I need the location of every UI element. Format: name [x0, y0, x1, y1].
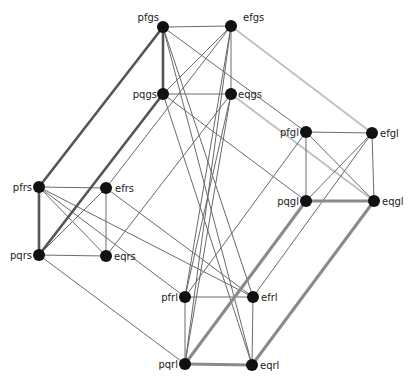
node-dot[interactable] — [300, 126, 312, 138]
node-pqrs[interactable]: pqrs — [10, 249, 45, 261]
edge-eqgs-pqrl — [185, 94, 231, 364]
node-label: eqgs — [238, 89, 262, 100]
node-dot[interactable] — [300, 195, 312, 207]
node-label: pfgs — [138, 12, 159, 23]
node-label: pfrl — [161, 292, 178, 303]
edge-pfrs-pfrl — [39, 187, 185, 297]
edge-eqgs-eqgl — [231, 94, 374, 201]
node-pqgl[interactable]: pqgl — [277, 195, 312, 207]
edge-pqgs-pqrs — [39, 94, 163, 255]
node-dot[interactable] — [179, 291, 191, 303]
node-efrl[interactable]: efrl — [247, 291, 278, 303]
node-eqgs[interactable]: eqgs — [225, 88, 262, 100]
node-label: pfgl — [280, 127, 299, 138]
node-label: efgl — [380, 128, 399, 139]
edge-pqrl-eqrl — [185, 364, 252, 365]
node-label: efrs — [115, 183, 134, 194]
edge-efgs-pfrl — [185, 26, 231, 297]
node-eqgl[interactable]: eqgl — [368, 195, 404, 207]
node-eqrs[interactable]: eqrs — [100, 250, 136, 262]
node-dot[interactable] — [33, 249, 45, 261]
node-label: eqgl — [382, 196, 404, 207]
node-dot[interactable] — [225, 20, 237, 32]
node-efgl[interactable]: efgl — [366, 127, 399, 139]
hypercube-graph: pfgsefgspqgseqgspfglefglpqgleqglpfrsefrs… — [0, 0, 412, 388]
edge-pfgs-pfrs — [39, 27, 163, 187]
node-dot[interactable] — [366, 127, 378, 139]
edge-efrs-efrl — [106, 188, 253, 297]
edge-pfrs-efrs — [39, 187, 106, 188]
node-label: pqrs — [10, 250, 32, 261]
node-dot[interactable] — [368, 195, 380, 207]
node-pfgl[interactable]: pfgl — [280, 126, 312, 138]
node-dot[interactable] — [33, 181, 45, 193]
node-pqgs[interactable]: pqgs — [133, 88, 169, 100]
node-dot[interactable] — [157, 88, 169, 100]
node-efgs[interactable]: efgs — [225, 12, 264, 32]
node-dot[interactable] — [179, 358, 191, 370]
edge-pfgl-pfrl — [185, 132, 306, 297]
node-label: pfrs — [13, 182, 32, 193]
node-pfgs[interactable]: pfgs — [138, 12, 169, 33]
edge-eqgl-eqrl — [252, 201, 374, 365]
node-dot[interactable] — [100, 182, 112, 194]
edge-layer — [39, 26, 374, 365]
node-eqrl[interactable]: eqrl — [246, 359, 279, 371]
edge-pfgs-efgs — [163, 26, 231, 27]
edge-efgl-pqgl — [306, 133, 372, 201]
node-efrs[interactable]: efrs — [100, 182, 134, 194]
node-label: efrl — [261, 292, 278, 303]
node-dot[interactable] — [225, 88, 237, 100]
node-label: eqrl — [260, 360, 279, 371]
edge-pqrs-eqrs — [39, 255, 106, 256]
node-pfrl[interactable]: pfrl — [161, 291, 191, 303]
node-dot[interactable] — [247, 291, 259, 303]
edge-pfgl-efgl — [306, 132, 372, 133]
edge-pfgs-pfgl — [163, 27, 306, 132]
edge-efrl-eqrl — [252, 297, 253, 365]
edge-pqrs-pqrl — [39, 255, 185, 364]
node-label: pqgl — [277, 196, 299, 207]
node-pfrs[interactable]: pfrs — [13, 181, 45, 193]
node-pqrl[interactable]: pqrl — [158, 358, 191, 370]
node-label: pqrl — [158, 359, 178, 370]
node-dot[interactable] — [100, 250, 112, 262]
node-label: pqgs — [133, 89, 157, 100]
edge-efgl-efrl — [253, 133, 372, 297]
edge-efgl-eqgl — [372, 133, 374, 201]
node-label: eqrs — [114, 251, 136, 262]
node-label: efgs — [243, 12, 264, 23]
node-dot[interactable] — [246, 359, 258, 371]
edge-efgs-efgl — [231, 26, 372, 133]
